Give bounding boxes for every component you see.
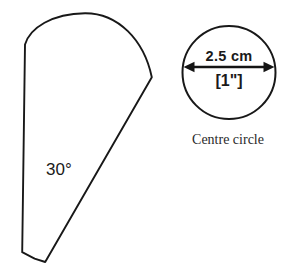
diagram-svg: 30° 2.5 cm [1"] Centre circle [0,0,289,279]
wedge-pattern-outline [22,13,152,262]
circle-metric-dimension-label: 2.5 cm [206,48,253,64]
diagram-canvas: 30° 2.5 cm [1"] Centre circle [0,0,289,279]
wedge-angle-label: 30° [46,160,72,179]
circle-imperial-dimension-label: [1"] [215,72,242,89]
centre-circle-caption: Centre circle [192,132,264,147]
